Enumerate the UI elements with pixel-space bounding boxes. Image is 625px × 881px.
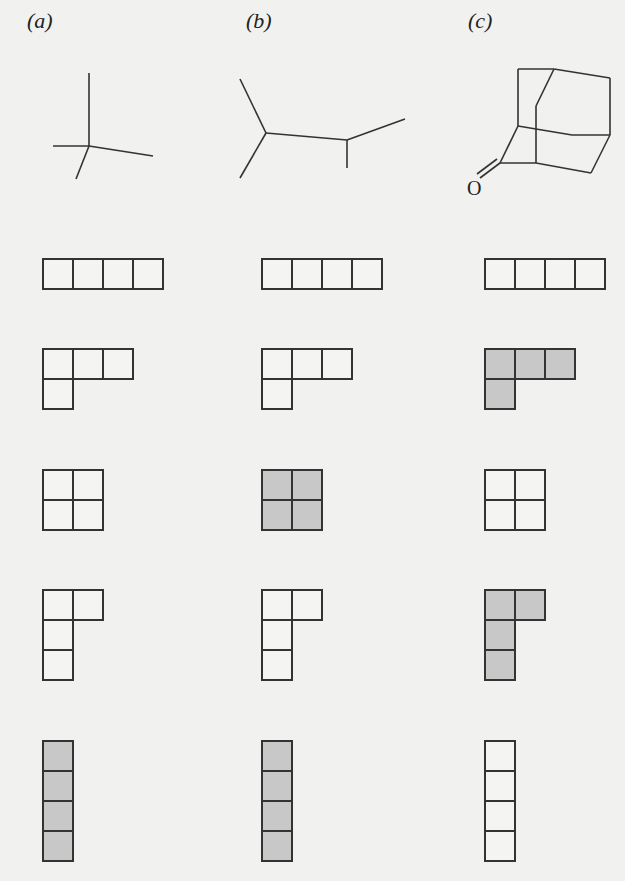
unshaded-cell [103, 259, 133, 289]
row-2-L-tetromino-a [43, 349, 133, 409]
unshaded-cell [262, 349, 292, 379]
unshaded-cell [485, 831, 515, 861]
unshaded-cell [73, 349, 103, 379]
unshaded-cell [262, 379, 292, 409]
unshaded-cell [485, 470, 515, 500]
tetromino-grid [43, 259, 605, 861]
unshaded-cell [515, 500, 545, 530]
shaded-cell [485, 349, 515, 379]
shaded-cell [545, 349, 575, 379]
unshaded-cell [352, 259, 382, 289]
row-4-vertical-L-tetromino-b [262, 590, 322, 680]
molecule-c [477, 69, 610, 178]
unshaded-cell [43, 620, 73, 650]
shaded-cell [262, 831, 292, 861]
shaded-cell [485, 379, 515, 409]
unshaded-cell [292, 259, 322, 289]
shaded-cell [485, 620, 515, 650]
oxygen-atom-label: O [467, 177, 481, 199]
unshaded-cell [322, 259, 352, 289]
unshaded-cell [485, 771, 515, 801]
row-1-horizontal-tetromino-a [43, 259, 163, 289]
row-4-vertical-L-tetromino-c [485, 590, 545, 680]
figure-canvas: O [0, 0, 625, 881]
unshaded-cell [43, 349, 73, 379]
molecule-a [53, 73, 153, 179]
unshaded-cell [515, 470, 545, 500]
shaded-cell [515, 590, 545, 620]
shaded-cell [515, 349, 545, 379]
shaded-cell [262, 470, 292, 500]
unshaded-cell [292, 590, 322, 620]
row-5-vertical-tetromino-c [485, 741, 515, 861]
row-2-L-tetromino-b [262, 349, 352, 409]
unshaded-cell [485, 259, 515, 289]
shaded-cell [43, 831, 73, 861]
shaded-cell [485, 650, 515, 680]
row-2-L-tetromino-c [485, 349, 575, 409]
unshaded-cell [73, 259, 103, 289]
unshaded-cell [545, 259, 575, 289]
unshaded-cell [73, 470, 103, 500]
shaded-cell [292, 470, 322, 500]
unshaded-cell [322, 349, 352, 379]
row-3-square-tetromino-c [485, 470, 545, 530]
unshaded-cell [43, 379, 73, 409]
shaded-cell [43, 771, 73, 801]
row-3-square-tetromino-b [262, 470, 322, 530]
shaded-cell [262, 500, 292, 530]
shaded-cell [262, 741, 292, 771]
shaded-cell [43, 741, 73, 771]
unshaded-cell [43, 500, 73, 530]
row-1-horizontal-tetromino-c [485, 259, 605, 289]
unshaded-cell [575, 259, 605, 289]
unshaded-cell [73, 500, 103, 530]
row-5-vertical-tetromino-b [262, 741, 292, 861]
unshaded-cell [43, 590, 73, 620]
unshaded-cell [133, 259, 163, 289]
row-5-vertical-tetromino-a [43, 741, 73, 861]
row-4-vertical-L-tetromino-a [43, 590, 103, 680]
shaded-cell [262, 771, 292, 801]
unshaded-cell [43, 470, 73, 500]
shaded-cell [485, 590, 515, 620]
unshaded-cell [485, 500, 515, 530]
shaded-cell [43, 801, 73, 831]
row-1-horizontal-tetromino-b [262, 259, 382, 289]
row-3-square-tetromino-a [43, 470, 103, 530]
unshaded-cell [262, 590, 292, 620]
unshaded-cell [43, 650, 73, 680]
unshaded-cell [262, 620, 292, 650]
unshaded-cell [262, 650, 292, 680]
unshaded-cell [515, 259, 545, 289]
molecule-b [240, 79, 405, 178]
shaded-cell [292, 500, 322, 530]
shaded-cell [262, 801, 292, 831]
unshaded-cell [43, 259, 73, 289]
unshaded-cell [292, 349, 322, 379]
unshaded-cell [485, 741, 515, 771]
unshaded-cell [262, 259, 292, 289]
unshaded-cell [485, 801, 515, 831]
unshaded-cell [103, 349, 133, 379]
unshaded-cell [73, 590, 103, 620]
